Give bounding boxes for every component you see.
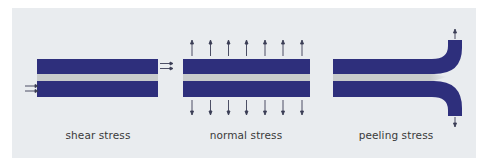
peeling-adhesive-layer <box>333 73 447 82</box>
peeling-stress-label: peeling stress <box>326 129 466 141</box>
normal-stress-label: normal stress <box>176 129 316 141</box>
normal-bottom-substrate <box>183 81 310 97</box>
shear-top-substrate <box>37 59 158 74</box>
shear-adhesive-layer <box>37 74 158 81</box>
shear-stress-figure <box>25 59 173 97</box>
shear-stress-label: shear stress <box>28 129 168 141</box>
stress-types-diagram <box>0 0 488 167</box>
normal-adhesive-layer <box>183 74 310 81</box>
normal-top-substrate <box>183 59 310 74</box>
shear-bottom-substrate <box>37 81 158 97</box>
